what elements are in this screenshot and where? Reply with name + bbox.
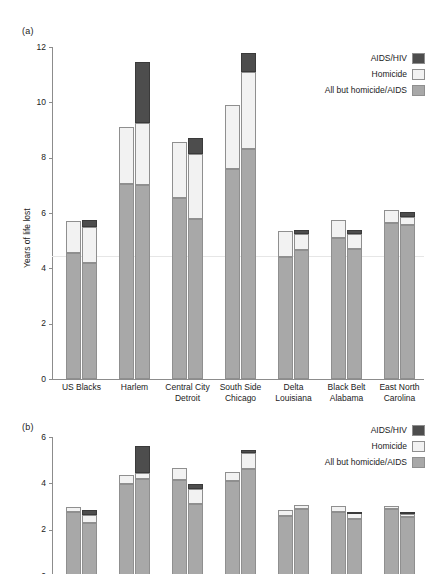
segment-all-but-homicide-aids: [225, 169, 240, 379]
segment-homicide: [119, 475, 134, 484]
bar: [225, 47, 240, 379]
y-axis-tick-label: 0: [22, 571, 46, 574]
bar: [119, 437, 134, 574]
segment-homicide: [278, 231, 293, 257]
legend-swatch-icon: [412, 457, 425, 468]
segment-homicide: [241, 453, 256, 469]
legend-item-homicide[interactable]: Homicide: [255, 440, 425, 452]
segment-all-but-homicide-aids: [119, 184, 134, 379]
y-axis-tick: [49, 213, 52, 214]
legend-swatch-icon: [412, 53, 425, 64]
y-axis-tick-label: 8: [22, 152, 46, 162]
segment-aids-hiv: [347, 230, 362, 234]
y-axis-tick: [49, 483, 52, 484]
legend-label: Homicide: [372, 69, 407, 79]
segment-all-but-homicide-aids: [82, 523, 97, 574]
segment-aids-hiv: [400, 512, 415, 514]
segment-all-but-homicide-aids: [119, 484, 134, 574]
bar: [278, 47, 293, 379]
bar: [135, 47, 150, 379]
legend-label: AIDS/HIV: [371, 53, 407, 63]
segment-homicide: [135, 473, 150, 479]
legend-swatch-icon: [412, 441, 425, 452]
segment-homicide: [135, 123, 150, 185]
segment-all-but-homicide-aids: [82, 263, 97, 379]
segment-homicide: [82, 227, 97, 263]
y-axis-tick-label: 6: [22, 208, 46, 218]
segment-all-but-homicide-aids: [347, 249, 362, 379]
bar: [225, 437, 240, 574]
bar: [384, 47, 399, 379]
legend-label: All but homicide/AIDS: [325, 457, 407, 467]
segment-all-but-homicide-aids: [135, 185, 150, 379]
segment-all-but-homicide-aids: [294, 250, 309, 379]
legend-item-aids-hiv[interactable]: AIDS/HIV: [255, 424, 425, 436]
bar: [241, 47, 256, 379]
segment-all-but-homicide-aids: [331, 238, 346, 379]
bar: [172, 47, 187, 379]
y-axis-tick-label: 12: [22, 42, 46, 52]
bar: [241, 437, 256, 574]
legend-swatch-icon: [412, 85, 425, 96]
x-axis-category-label: US Blacks: [54, 382, 109, 393]
segment-all-but-homicide-aids: [278, 257, 293, 379]
segment-all-but-homicide-aids: [400, 225, 415, 379]
bar: [82, 437, 97, 574]
bar: [119, 47, 134, 379]
panel-b: (b) Years of life lost 0246 AIDS/HIVHomi…: [0, 394, 430, 574]
y-axis-tick-label: 2: [22, 318, 46, 328]
segment-homicide: [172, 468, 187, 480]
panel-b-legend: AIDS/HIVHomicideAll but homicide/AIDS: [255, 424, 425, 468]
legend-swatch-icon: [412, 69, 425, 80]
y-axis-tick: [49, 530, 52, 531]
segment-all-but-homicide-aids: [241, 469, 256, 574]
segment-homicide: [384, 210, 399, 222]
segment-homicide: [384, 506, 399, 509]
segment-all-but-homicide-aids: [66, 253, 81, 379]
y-axis-tick: [49, 268, 52, 269]
y-axis-tick-label: 6: [22, 432, 46, 442]
segment-homicide: [331, 506, 346, 512]
segment-homicide: [66, 507, 81, 513]
segment-homicide: [331, 220, 346, 238]
segment-aids-hiv: [294, 230, 309, 234]
x-axis-category-line: East North: [372, 382, 427, 393]
y-axis-line: [52, 47, 53, 379]
segment-all-but-homicide-aids: [241, 149, 256, 379]
segment-aids-hiv: [135, 62, 150, 123]
y-axis-tick-label: 2: [22, 524, 46, 534]
segment-all-but-homicide-aids: [135, 479, 150, 574]
y-axis-tick: [49, 379, 52, 380]
x-axis-category-line: Central City: [160, 382, 215, 393]
segment-all-but-homicide-aids: [172, 480, 187, 574]
segment-all-but-homicide-aids: [66, 512, 81, 574]
legend-item-all-but-homicide-aids[interactable]: All but homicide/AIDS: [255, 84, 425, 96]
bar: [188, 47, 203, 379]
y-axis-tick: [49, 324, 52, 325]
y-axis-tick: [49, 102, 52, 103]
segment-all-but-homicide-aids: [188, 219, 203, 379]
legend-item-aids-hiv[interactable]: AIDS/HIV: [255, 52, 425, 64]
segment-homicide: [294, 234, 309, 251]
legend-item-all-but-homicide-aids[interactable]: All but homicide/AIDS: [255, 456, 425, 468]
y-axis-line: [52, 437, 53, 574]
segment-homicide: [241, 72, 256, 149]
bar: [135, 437, 150, 574]
segment-homicide: [66, 221, 81, 253]
legend-label: AIDS/HIV: [371, 425, 407, 435]
bar: [400, 47, 415, 379]
y-axis-tick: [49, 437, 52, 438]
bar: [66, 47, 81, 379]
x-axis-category-line: Black Belt: [319, 382, 374, 393]
y-axis-tick-label: 0: [22, 374, 46, 384]
segment-aids-hiv: [188, 138, 203, 153]
segment-aids-hiv: [400, 212, 415, 218]
segment-aids-hiv: [347, 512, 362, 514]
segment-homicide: [188, 489, 203, 504]
bar: [82, 47, 97, 379]
bar: [66, 437, 81, 574]
segment-homicide: [347, 513, 362, 518]
segment-homicide: [172, 142, 187, 197]
bar: [347, 47, 362, 379]
legend-item-homicide[interactable]: Homicide: [255, 68, 425, 80]
